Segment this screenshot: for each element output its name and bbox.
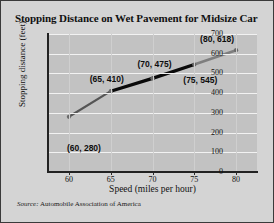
gridline-vertical (153, 34, 154, 172)
gridline-vertical (236, 34, 237, 172)
y-axis-tick-label: 400 (199, 89, 223, 97)
data-point-label: (60, 280) (67, 143, 101, 153)
x-axis-tick-label: 80 (221, 175, 251, 184)
y-axis-line (47, 33, 49, 173)
x-axis-tick-label: 75 (179, 175, 209, 184)
gridline-vertical (194, 34, 195, 172)
y-axis-title: Stopping distance (feet) (17, 0, 27, 129)
y-axis-tick-label: 300 (199, 109, 223, 117)
y-axis-tick-label: 200 (199, 129, 223, 137)
source-note: Source: Automobile Association of Americ… (17, 200, 141, 208)
x-axis-tick-label: 65 (96, 175, 126, 184)
data-point-label: (70, 475) (138, 59, 172, 69)
x-axis-tick-label: 60 (54, 175, 84, 184)
source-value: Automobile Association of America (40, 200, 141, 208)
data-point-label: (80, 618) (200, 34, 234, 44)
y-axis-tick-label: 600 (199, 50, 223, 58)
gridline-vertical (111, 34, 112, 172)
x-axis-tick-label: 70 (138, 175, 168, 184)
page-title: Stopping Distance on Wet Pavement for Mi… (15, 12, 267, 24)
data-point-label: (65, 410) (90, 74, 124, 84)
x-axis-title: Speed (miles per hour) (48, 184, 257, 194)
y-axis-tick-label: 100 (199, 148, 223, 156)
chart-figure: Stopping Distance on Wet Pavement for Mi… (0, 0, 274, 223)
data-point-label: (75, 545) (183, 75, 217, 85)
source-label: Source: (17, 200, 39, 208)
